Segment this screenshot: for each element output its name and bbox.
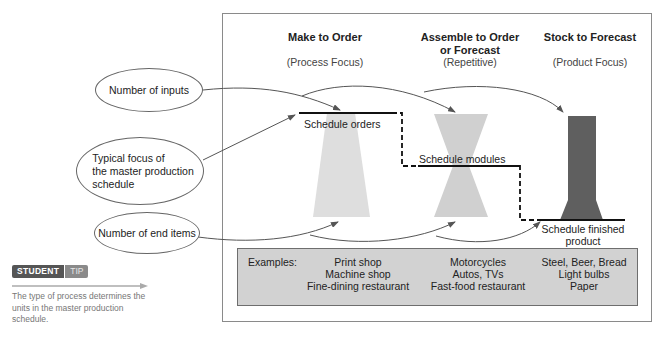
- schedule-finished-line2: product: [540, 235, 626, 247]
- example-item: Paper: [524, 280, 644, 292]
- example-item: Machine shop: [288, 268, 428, 280]
- end-items-arrow-1: [198, 222, 338, 240]
- callout-typical-focus-text: Typical focus of the master production s…: [86, 152, 194, 191]
- focus-line1: Typical focus of: [92, 152, 194, 165]
- callout-number-of-inputs-text: Number of inputs: [109, 84, 189, 97]
- student-tip-badge: STUDENT TIP: [12, 265, 88, 278]
- example-item: Fine-dining restaurant: [288, 280, 428, 292]
- callout-number-of-end-items-text: Number of end items: [98, 227, 195, 240]
- example-item: Steel, Beer, Bread: [524, 256, 644, 268]
- examples-make-to-order: Print shop Machine shop Fine-dining rest…: [288, 256, 428, 292]
- end-items-arrow-3: [436, 222, 540, 242]
- focus-arrow: [203, 115, 295, 160]
- schedule-modules-label: Schedule modules: [419, 153, 505, 165]
- focus-line3: schedule: [92, 178, 194, 191]
- tip-arrow-head: [140, 283, 148, 289]
- schedule-finished-label: Schedule finished product: [540, 223, 626, 247]
- example-item: Light bulbs: [524, 268, 644, 280]
- schedule-orders-label: Schedule orders: [304, 118, 380, 130]
- examples-box: Examples: Print shop Machine shop Fine-d…: [237, 248, 638, 306]
- examples-stock-to-forecast: Steel, Beer, Bread Light bulbs Paper: [524, 256, 644, 292]
- tip-badge: TIP: [65, 265, 88, 278]
- student-badge: STUDENT: [12, 265, 64, 278]
- student-tip-text: The type of process determines the units…: [12, 291, 147, 326]
- callout-number-of-end-items: Number of end items: [94, 212, 200, 254]
- focus-line2: the master production: [92, 165, 194, 178]
- inputs-arrow-3: [424, 86, 563, 112]
- callout-typical-focus: Typical focus of the master production s…: [76, 137, 204, 205]
- callout-number-of-inputs: Number of inputs: [95, 68, 203, 112]
- stock-to-forecast-shape: [560, 116, 603, 220]
- inputs-arrow-1: [203, 88, 340, 110]
- example-item: Print shop: [288, 256, 428, 268]
- schedule-finished-line1: Schedule finished: [540, 223, 626, 235]
